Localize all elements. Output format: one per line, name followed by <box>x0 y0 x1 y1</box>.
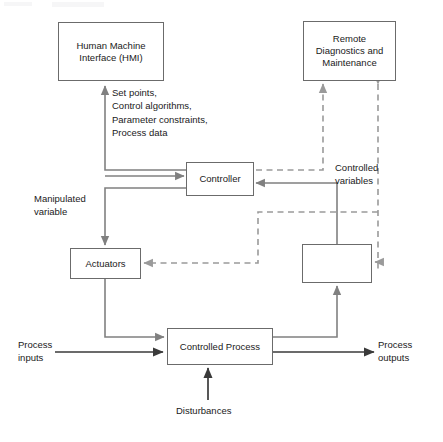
scan-artifact <box>52 2 104 7</box>
node-sensors-unlabeled[interactable] <box>302 244 372 283</box>
node-human-machine-interface[interactable]: Human Machine Interface (HMI) <box>58 22 164 81</box>
edge-label-controlled-variables: Controlled variables <box>335 161 378 188</box>
edge-label-process-outputs: Process outputs <box>378 338 412 365</box>
edge-label-disturbances: Disturbances <box>176 404 231 417</box>
node-label-remote: Remote Diagnostics and Maintenance <box>316 33 384 69</box>
edge-label-process-inputs: Process inputs <box>18 338 52 365</box>
node-label-controller: Controller <box>199 173 240 185</box>
node-label-hmi: Human Machine Interface (HMI) <box>76 40 145 64</box>
edge-label-control-signals: Set points, Control algorithms, Paramete… <box>112 86 208 140</box>
node-label-actuators: Actuators <box>85 258 125 270</box>
node-remote-diagnostics-and-maintenance[interactable]: Remote Diagnostics and Maintenance <box>303 21 396 81</box>
node-controller[interactable]: Controller <box>186 162 254 196</box>
edge-label-manipulated-variable: Manipulated variable <box>34 192 86 219</box>
scan-artifact <box>4 2 32 6</box>
node-label-controlled-process: Controlled Process <box>180 341 260 353</box>
node-actuators[interactable]: Actuators <box>70 248 141 279</box>
diagram-canvas: Human Machine Interface (HMI) Remote Dia… <box>0 0 443 442</box>
node-controlled-process[interactable]: Controlled Process <box>167 328 273 365</box>
